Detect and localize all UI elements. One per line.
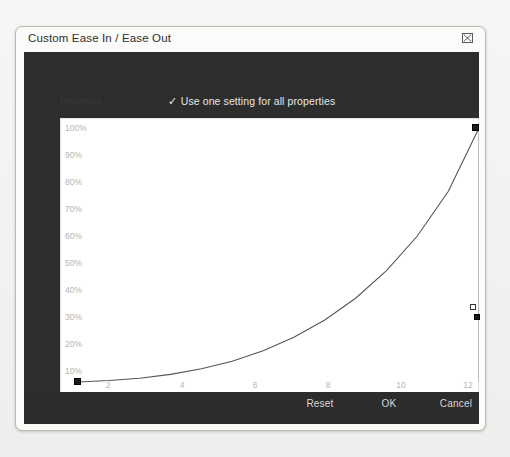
desktop-background: Custom Ease In / Ease Out Properties ✓ U… bbox=[0, 0, 510, 457]
y-tick-label: 90% bbox=[65, 150, 82, 160]
y-tick-label: 20% bbox=[65, 339, 82, 349]
dialog-titlebar: Custom Ease In / Ease Out bbox=[16, 27, 485, 52]
y-tick-label: 60% bbox=[65, 231, 82, 241]
y-tick-label: 10% bbox=[65, 366, 82, 376]
x-tick-label: 12 bbox=[463, 380, 472, 390]
x-tick-label: 6 bbox=[253, 380, 258, 390]
x-tick-label: 10 bbox=[396, 380, 405, 390]
use-one-setting-checkbox[interactable]: ✓ Use one setting for all properties bbox=[24, 92, 479, 110]
ease-control-handle[interactable] bbox=[470, 304, 476, 310]
cancel-button[interactable]: Cancel bbox=[432, 395, 480, 412]
reset-button[interactable]: Reset bbox=[296, 395, 344, 412]
dialog-body-panel: Properties ✓ Use one setting for all pro… bbox=[24, 52, 479, 424]
y-tick-label: 40% bbox=[65, 285, 82, 295]
ease-curve-graph[interactable]: 100% 90% 80% 70% 60% 50% 40% 30% 20% 10%… bbox=[60, 118, 479, 396]
x-tick-label: 8 bbox=[326, 380, 331, 390]
y-tick-label: 80% bbox=[65, 177, 82, 187]
checkmark-icon: ✓ bbox=[168, 96, 177, 107]
end-anchor-point[interactable] bbox=[472, 124, 479, 131]
y-tick-label: 50% bbox=[65, 258, 82, 268]
x-tick-label: 2 bbox=[106, 380, 111, 390]
y-tick-label: 70% bbox=[65, 204, 82, 214]
use-one-setting-label: Use one setting for all properties bbox=[181, 95, 336, 107]
ok-button[interactable]: OK bbox=[369, 395, 409, 412]
curve-plot bbox=[60, 118, 479, 396]
y-tick-label: 30% bbox=[65, 312, 82, 322]
start-anchor-point[interactable] bbox=[74, 378, 81, 385]
x-tick-label: 4 bbox=[180, 380, 185, 390]
dialog-title: Custom Ease In / Ease Out bbox=[28, 32, 171, 44]
close-icon[interactable] bbox=[458, 30, 477, 46]
ease-handle-marker[interactable] bbox=[474, 314, 480, 320]
custom-ease-dialog: Custom Ease In / Ease Out Properties ✓ U… bbox=[15, 26, 486, 431]
dialog-footer: Reset OK Cancel bbox=[24, 392, 479, 424]
y-tick-label: 100% bbox=[65, 123, 87, 133]
